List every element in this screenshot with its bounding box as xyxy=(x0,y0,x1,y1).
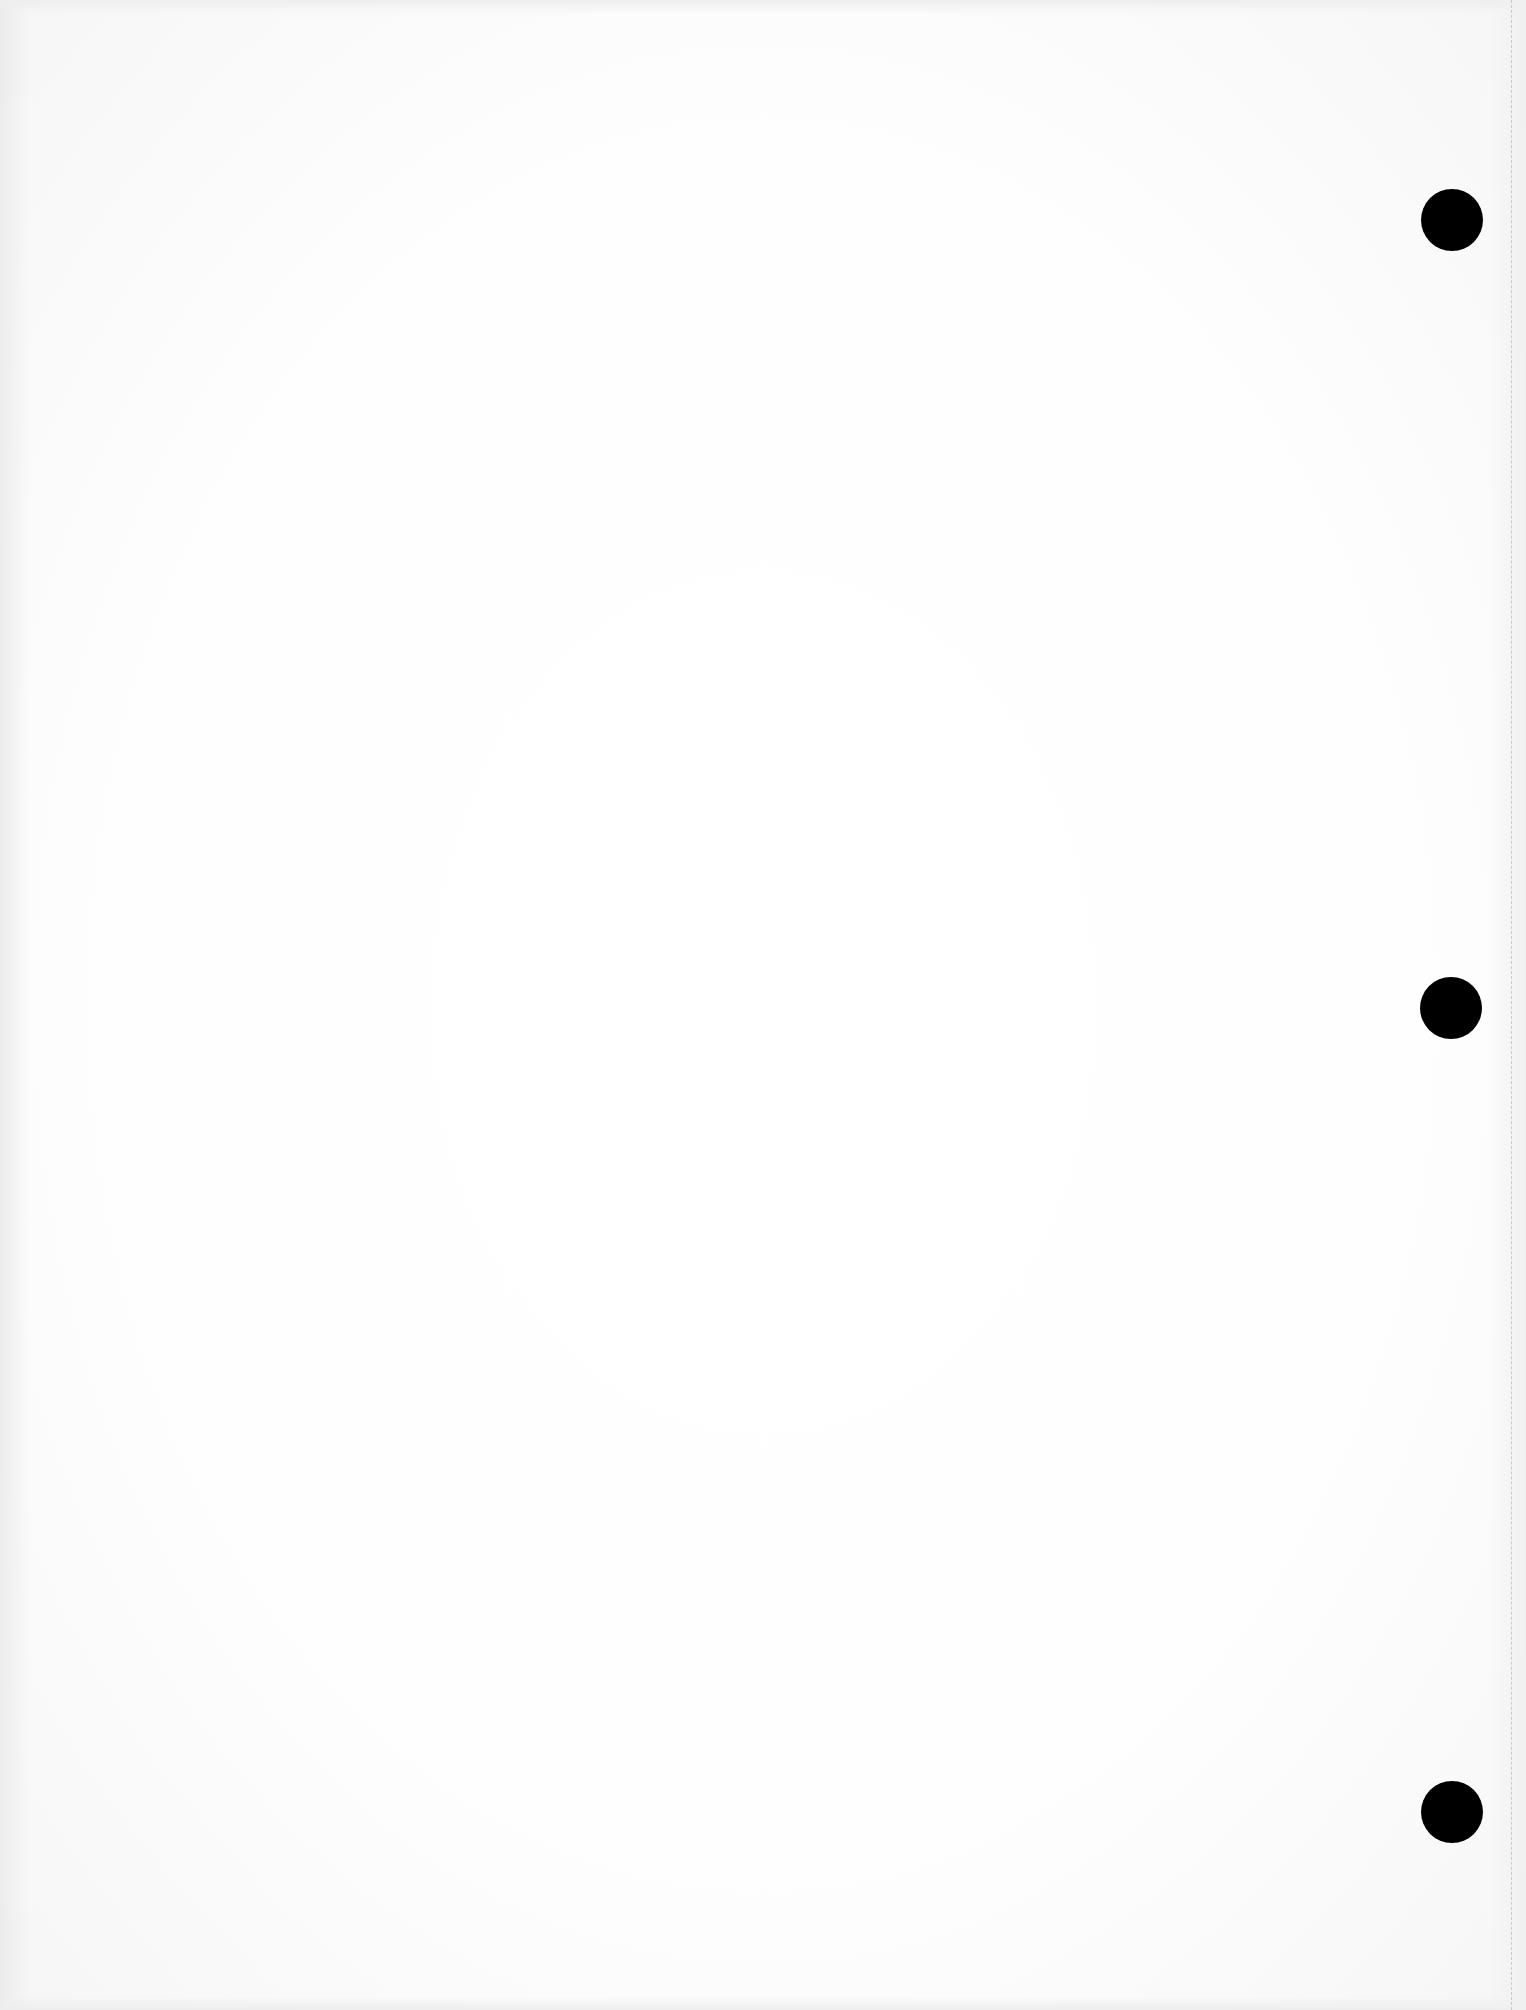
punch-hole-top-icon xyxy=(1421,189,1483,251)
scan-shadow-bottom xyxy=(0,1996,1526,2010)
scan-shadow-right xyxy=(1488,0,1526,2010)
perforation-line xyxy=(1511,0,1512,2010)
scan-shadow-left xyxy=(0,0,30,2010)
punch-hole-bottom-icon xyxy=(1421,1781,1483,1843)
punch-hole-middle-icon xyxy=(1420,977,1482,1039)
scan-shadow-top xyxy=(0,0,1526,14)
blank-page xyxy=(0,0,1526,2010)
